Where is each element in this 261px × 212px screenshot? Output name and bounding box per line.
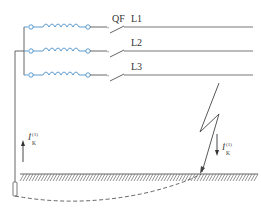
breaker-contact-icon: × (107, 25, 110, 30)
breaker-blade-icon (110, 50, 124, 57)
lightning-fault-icon (200, 83, 219, 172)
line-label-l3: L3 (131, 61, 142, 72)
breaker-label: QF (112, 13, 125, 24)
phase-row-3: × (24, 72, 253, 81)
fault-arrowhead-icon (200, 166, 205, 174)
ground-electrode-icon (13, 182, 17, 196)
svg-text:(1): (1) (226, 142, 232, 147)
fault-diagram: × × × QF L1 L2 L3 İ K (1) (0, 0, 261, 212)
earth-ground-icon (20, 174, 258, 181)
svg-text:K: K (32, 140, 36, 146)
phase-row-1: × (24, 24, 253, 33)
breaker-contact-icon: × (107, 73, 110, 78)
fault-current-label: İ K (1) (221, 142, 232, 156)
phase-row-2: × (24, 48, 253, 57)
line-label-l1: L1 (131, 13, 142, 24)
line-label-l2: L2 (131, 37, 142, 48)
breaker-blade-icon (110, 26, 124, 33)
svg-text:K: K (226, 150, 230, 156)
winding-icon (43, 72, 79, 75)
svg-text:(1): (1) (32, 132, 38, 137)
return-current-label: İ K (1) (27, 132, 38, 146)
winding-icon (43, 24, 79, 27)
breaker-contact-icon: × (107, 49, 110, 54)
winding-icon (43, 48, 79, 51)
breaker-blade-icon (110, 74, 124, 81)
